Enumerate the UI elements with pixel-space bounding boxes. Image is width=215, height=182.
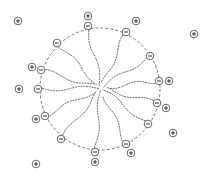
negative-head-icon <box>53 39 61 47</box>
surfactant-tail <box>102 90 145 121</box>
negative-head-icon <box>155 77 163 85</box>
positive-counterion-icon <box>127 149 135 157</box>
surfactant-tail <box>50 93 95 116</box>
positive-counterion-icon <box>91 158 99 166</box>
negative-head-icon <box>84 22 92 30</box>
positive-counterion-icon <box>169 129 177 137</box>
negative-head-icon <box>57 135 65 143</box>
negative-head-icon <box>37 66 45 74</box>
positive-counterion-icon <box>84 12 92 20</box>
hydrocarbon-tails <box>42 30 155 148</box>
positive-counterion-icon <box>132 17 140 25</box>
positive-counterion-icon <box>165 77 173 85</box>
surfactant-tail <box>63 91 97 135</box>
negative-head-icon <box>146 52 154 60</box>
positive-counterion-icon <box>190 30 198 38</box>
positive-counterion-icon <box>162 104 170 112</box>
negative-head-icon <box>122 140 130 148</box>
surfactant-tail <box>103 96 123 141</box>
surfactant-tail <box>106 87 153 100</box>
positive-counterion-icon <box>28 63 36 71</box>
positive-counterion-icon <box>32 115 40 123</box>
negative-head-icon <box>41 112 49 120</box>
negative-head-icon <box>91 148 99 156</box>
surfactant-tail <box>103 58 146 88</box>
positive-counterion-icon <box>32 160 40 168</box>
negative-head-icon <box>144 120 152 128</box>
micelle-diagram <box>0 0 215 182</box>
negative-head-icon <box>34 85 42 93</box>
negative-head-icon <box>153 99 161 107</box>
surfactant-tail <box>109 82 155 89</box>
surfactant-tail <box>42 86 99 91</box>
positive-counterion-icon <box>15 85 23 93</box>
surfactant-tail <box>94 90 101 148</box>
positive-counterion-icon <box>14 17 22 25</box>
negative-head-icon <box>122 28 130 36</box>
surfactant-tail <box>101 35 123 83</box>
surfactant-tail <box>89 30 100 86</box>
surfactant-tail <box>45 70 97 85</box>
